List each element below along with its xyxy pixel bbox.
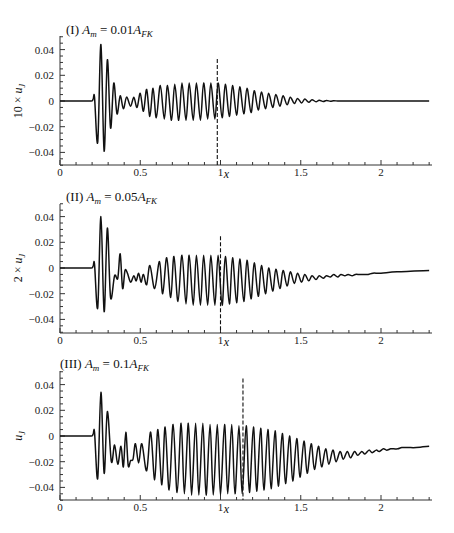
- y-tick-label: −0.02: [29, 121, 54, 133]
- figure: 00.511.520.040.020−0.02−0.04(I) Am = 0.0…: [0, 0, 454, 533]
- x-axis-label: x: [223, 167, 230, 181]
- data-curve: [60, 44, 429, 151]
- x-tick-label: 1: [218, 334, 224, 346]
- x-tick-label: 1.5: [294, 166, 308, 178]
- y-tick-label: 0: [49, 95, 55, 107]
- x-tick-label: 1.5: [294, 501, 308, 513]
- x-tick-label: 0.5: [133, 166, 147, 178]
- x-axis-label: x: [223, 335, 230, 349]
- y-tick-label: 0: [49, 262, 55, 274]
- x-tick-label: 0.5: [133, 501, 147, 513]
- x-tick-label: 0: [57, 166, 63, 178]
- y-tick-label: 0.04: [35, 44, 55, 56]
- x-tick-label: 0: [57, 501, 63, 513]
- x-tick-label: 2: [378, 334, 384, 346]
- panel-i: 00.511.520.040.020−0.02−0.04(I) Am = 0.0…: [11, 22, 432, 181]
- x-tick-label: 1.5: [294, 334, 308, 346]
- y-tick-label: 0: [49, 430, 55, 442]
- y-axis-label: 10 × uJ: [11, 83, 27, 118]
- y-axis-label: 2 × uJ: [11, 253, 27, 282]
- y-axis-label: uJ: [11, 431, 27, 441]
- y-tick-label: −0.04: [29, 313, 55, 325]
- panel-title: (II) Am = 0.05AFK: [66, 189, 158, 206]
- y-tick-label: 0.02: [35, 404, 54, 416]
- x-tick-label: 2: [378, 501, 384, 513]
- x-axis-label: x: [223, 502, 230, 516]
- y-tick-label: 0.02: [35, 236, 54, 248]
- data-curve: [60, 217, 429, 312]
- x-tick-label: 0: [57, 334, 63, 346]
- x-tick-label: 1: [218, 501, 224, 513]
- panel-title: (I) Am = 0.01AFK: [66, 22, 154, 39]
- panel-title: (III) Am = 0.1AFK: [60, 356, 150, 373]
- y-tick-label: −0.02: [29, 456, 54, 468]
- panel-ii: 00.511.520.040.020−0.02−0.04(II) Am = 0.…: [11, 189, 432, 349]
- y-tick-label: −0.04: [29, 146, 55, 158]
- data-curve: [60, 392, 429, 495]
- y-tick-label: 0.04: [35, 211, 55, 223]
- x-tick-label: 0.5: [133, 334, 147, 346]
- x-tick-label: 2: [378, 166, 384, 178]
- y-tick-label: 0.04: [35, 379, 55, 391]
- y-tick-label: 0.02: [35, 69, 54, 81]
- y-tick-label: −0.04: [29, 481, 55, 493]
- y-tick-label: −0.02: [29, 288, 54, 300]
- panel-iii: 00.511.520.040.020−0.02−0.04(III) Am = 0…: [11, 356, 432, 516]
- x-tick-label: 1: [218, 166, 224, 178]
